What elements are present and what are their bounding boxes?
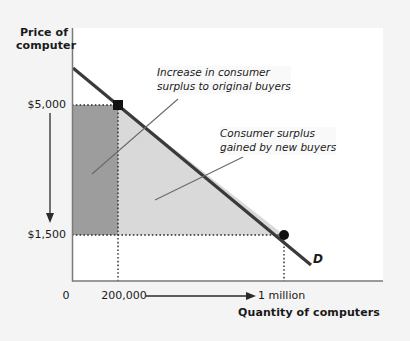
annotation-increase-original-buyers-line2: surplus to original buyers [157, 80, 291, 94]
y-tick-label-5000: $5,000 [20, 98, 66, 111]
annotation-gained-new-buyers-line2: gained by new buyers [220, 141, 336, 155]
point-new-equilibrium [279, 230, 289, 240]
y-axis-title-line1: Price of [16, 26, 72, 39]
price-decrease-arrow [46, 113, 54, 223]
point-original-equilibrium [113, 100, 123, 110]
annotation-gained-new-buyers: Consumer surplus gained by new buyers [220, 127, 336, 155]
x-tick-label-200000: 200,000 [94, 289, 154, 302]
annotation-gained-new-buyers-line1: Consumer surplus [220, 127, 336, 141]
x-axis-title: Quantity of computers [238, 306, 398, 319]
annotation-increase-original-buyers: Increase in consumer surplus to original… [157, 66, 291, 94]
y-axis-title-line2: computer [16, 39, 72, 52]
annotation-increase-original-buyers-line1: Increase in consumer [157, 66, 291, 80]
demand-curve-label: D [313, 252, 323, 266]
y-axis-title: Price of computer [16, 26, 72, 53]
x-tick-label-zero: 0 [60, 289, 72, 302]
x-tick-label-1million: 1 million [258, 289, 324, 302]
consumer-surplus-diagram: Price of computer Quantity of computers … [0, 0, 410, 341]
quantity-increase-arrow [146, 292, 256, 300]
region-increase-original-buyers [73, 105, 118, 235]
y-tick-label-1500: $1,500 [20, 228, 66, 241]
